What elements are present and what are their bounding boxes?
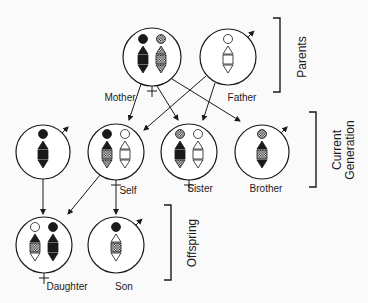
segment-middle bbox=[48, 243, 58, 252]
label-mother: Mother bbox=[104, 92, 136, 103]
group-label-parents: Parents bbox=[295, 36, 309, 77]
label-son: Son bbox=[115, 281, 133, 292]
individual-circle bbox=[88, 124, 144, 180]
bracket-current: CurrentGeneration bbox=[309, 112, 357, 187]
label-daughter: Daughter bbox=[46, 281, 88, 292]
segment-middle bbox=[193, 150, 203, 159]
chromosome bbox=[120, 130, 130, 169]
bracket-line bbox=[273, 18, 280, 92]
segment-head bbox=[103, 130, 112, 139]
individual-brother: Brother bbox=[235, 125, 289, 194]
male-symbol-icon bbox=[62, 127, 68, 133]
individual-spouse bbox=[16, 125, 70, 179]
chromosome bbox=[48, 223, 58, 262]
segment-middle bbox=[30, 243, 40, 252]
chromosome bbox=[175, 130, 185, 169]
label-self: Self bbox=[119, 185, 136, 196]
segment-head bbox=[39, 130, 48, 139]
segment-head bbox=[157, 35, 166, 44]
group-label-current-line1: Current bbox=[330, 129, 344, 170]
segment-middle bbox=[38, 150, 48, 159]
chromosome bbox=[38, 130, 48, 169]
individual-son: Son bbox=[88, 217, 144, 292]
segment-head bbox=[176, 130, 185, 139]
segment-middle bbox=[111, 243, 121, 252]
male-symbol-icon bbox=[248, 31, 254, 37]
bracket-line bbox=[164, 205, 171, 280]
arrow-father-to-sister bbox=[203, 83, 215, 120]
segment-middle bbox=[138, 55, 148, 64]
chromosome bbox=[223, 35, 233, 74]
chromosome bbox=[102, 130, 112, 169]
segment-middle bbox=[156, 55, 166, 64]
arrow-self-to-daughter bbox=[68, 175, 100, 214]
label-father: Father bbox=[228, 92, 258, 103]
segment-middle bbox=[120, 150, 130, 159]
group-label-offspring: Offspring bbox=[185, 219, 199, 267]
male-symbol-icon bbox=[136, 219, 142, 225]
group-label-current-line2: Generation bbox=[343, 120, 357, 179]
segment-middle bbox=[257, 150, 267, 159]
segment-head bbox=[121, 130, 130, 139]
chromosome bbox=[193, 130, 203, 169]
individual-father: Father bbox=[200, 29, 257, 103]
segment-head bbox=[194, 130, 203, 139]
bracket-offspring: Offspring bbox=[164, 205, 199, 280]
individuals: MotherFatherSelfSisterBrotherDaughterSon bbox=[16, 28, 289, 292]
label-brother: Brother bbox=[250, 183, 283, 194]
individual-daughter: Daughter bbox=[16, 217, 88, 292]
chromosome bbox=[30, 223, 40, 262]
segment-middle bbox=[223, 55, 233, 64]
segment-head bbox=[258, 130, 267, 139]
chromosome bbox=[111, 223, 121, 262]
bracket-parents: Parents bbox=[273, 18, 309, 92]
segment-middle bbox=[102, 150, 112, 159]
individual-mother: Mother bbox=[104, 28, 181, 103]
individual-circle bbox=[16, 217, 72, 273]
individual-sister: Sister bbox=[161, 124, 217, 194]
chromosome bbox=[257, 130, 267, 169]
segment-middle bbox=[175, 150, 185, 159]
segment-head bbox=[49, 223, 58, 232]
chromosome bbox=[138, 35, 148, 74]
individual-circle bbox=[161, 124, 217, 180]
segment-head bbox=[31, 223, 40, 232]
bracket-line bbox=[309, 112, 316, 187]
individual-circle bbox=[123, 28, 181, 86]
label-sister: Sister bbox=[187, 183, 213, 194]
segment-head bbox=[139, 35, 148, 44]
pedigree-diagram: MotherFatherSelfSisterBrotherDaughterSon… bbox=[0, 0, 368, 303]
individual-self: Self bbox=[88, 124, 144, 196]
chromosome bbox=[156, 35, 166, 74]
male-symbol-icon bbox=[281, 127, 287, 133]
segment-head bbox=[224, 35, 233, 44]
segment-head bbox=[112, 223, 121, 232]
